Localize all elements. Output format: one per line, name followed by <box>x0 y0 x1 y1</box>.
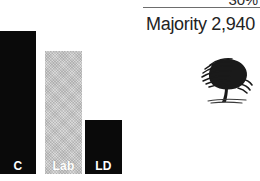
bar-libdem: LD <box>85 120 122 174</box>
axis-top-rule <box>143 7 260 8</box>
bar-label-labour: Lab <box>45 160 82 172</box>
bar-conservative: C <box>0 31 36 174</box>
election-result-chart: 30% Majority 2,940 C Lab LD <box>0 0 260 181</box>
majority-label: Majority 2,940 <box>146 14 255 35</box>
bar-label-conservative: C <box>0 160 36 172</box>
bar-labour: Lab <box>45 51 82 174</box>
bar-label-libdem: LD <box>85 160 122 172</box>
tree-icon <box>198 53 254 105</box>
